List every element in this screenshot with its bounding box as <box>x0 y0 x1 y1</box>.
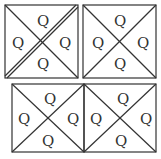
label-br-bottom: Q <box>115 132 127 150</box>
label-tl-top: Q <box>37 12 49 30</box>
diagram-canvas: Q Q Q Q Q Q Q Q Q Q Q Q Q Q Q Q <box>0 0 161 159</box>
label-bl-right: Q <box>67 110 79 128</box>
label-br-top: Q <box>117 90 129 108</box>
label-br-right: Q <box>140 110 152 128</box>
label-tl-right: Q <box>59 34 71 52</box>
label-tr-bottom: Q <box>114 55 126 73</box>
label-tl-left: Q <box>12 34 24 52</box>
label-tr-top: Q <box>114 12 126 30</box>
label-tr-right: Q <box>137 34 149 52</box>
label-tr-left: Q <box>92 34 104 52</box>
label-bl-bottom: Q <box>42 132 54 150</box>
label-br-left: Q <box>90 110 102 128</box>
label-bl-top: Q <box>44 90 56 108</box>
label-tl-bottom: Q <box>37 55 49 73</box>
label-bl-left: Q <box>18 110 30 128</box>
